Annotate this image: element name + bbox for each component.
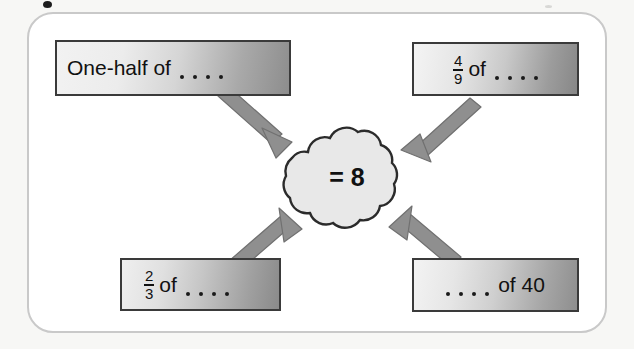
fraction-two-thirds: 2 3: [144, 268, 154, 301]
fraction-numerator: 4: [453, 53, 463, 68]
ink-speck-secondary-icon: [545, 5, 552, 8]
blank-dots: [186, 292, 229, 296]
of-label: of: [159, 273, 177, 297]
cloud-label: = 8: [278, 118, 400, 236]
expression-box-top-left[interactable]: One-half of: [55, 40, 291, 96]
of-label: of: [468, 57, 486, 81]
expression-label: One-half of: [67, 56, 171, 80]
fraction-denominator: 9: [453, 69, 463, 86]
expression-box-top-right[interactable]: 4 9 of: [412, 42, 579, 96]
blank-dots: [446, 292, 489, 296]
center-cloud: = 8: [278, 118, 400, 236]
blank-dots: [495, 76, 538, 80]
fraction-four-ninths: 4 9: [453, 53, 463, 86]
blank-dots: [180, 75, 223, 79]
diagram-stage: = 8 One-half of 4 9 of 2 3: [0, 0, 634, 349]
fraction-denominator: 3: [144, 284, 154, 301]
expression-label: of 40: [498, 273, 545, 297]
expression-box-bottom-left[interactable]: 2 3 of: [120, 258, 281, 311]
ink-speck-icon: [43, 1, 52, 8]
fraction-numerator: 2: [144, 268, 154, 283]
expression-box-bottom-right[interactable]: of 40: [412, 258, 579, 312]
